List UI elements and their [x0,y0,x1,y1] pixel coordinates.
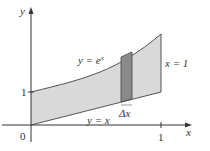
y-axis-label: y [19,5,25,17]
x-tick-label: 1 [158,131,164,143]
shaded-region [31,34,161,125]
x-axis-label: x [185,126,191,138]
lower-curve-label: y = x [86,114,110,126]
y-tick-label: 1 [21,86,27,98]
y-axis-arrow-icon [29,7,34,14]
region-diagram: y x 0 1 1 y = ex y = x x = 1 Δx [0,0,210,151]
right-boundary-label: x = 1 [164,57,188,69]
delta-x-strip [121,52,132,102]
delta-x-label: Δx [118,107,130,119]
upper-curve-base: y = e [77,54,101,66]
upper-curve-exponent: x [100,54,105,62]
upper-curve-label: y = ex [77,54,105,66]
origin-label: 0 [20,130,26,142]
